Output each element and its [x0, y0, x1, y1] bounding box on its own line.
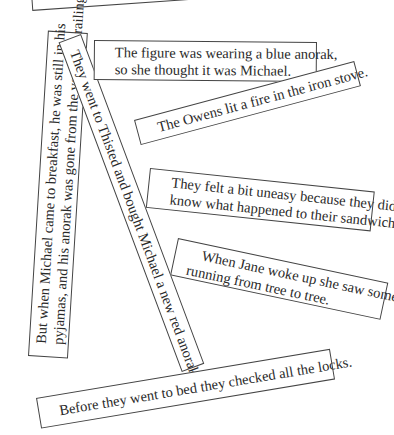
- strip-line-1: The figure was wearing a blue anorak,: [115, 44, 316, 63]
- strip-line-2: so she thought it was Michael.: [115, 61, 316, 80]
- sentence-strip-uneasy-sandwiches[interactable]: They felt a bit uneasy because they didn…: [146, 168, 375, 231]
- sentence-strip-jane-woke[interactable]: When Jane woke up she saw someone runnin…: [170, 238, 388, 320]
- sentence-strip-figure-blue-anorak[interactable]: The figure was wearing a blue anorak, so…: [94, 40, 317, 82]
